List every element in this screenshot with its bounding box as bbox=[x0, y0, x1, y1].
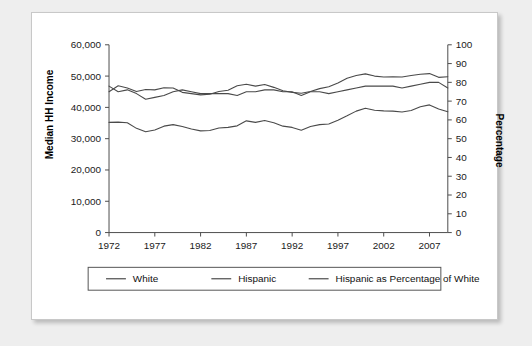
line-chart: 010,00020,00030,00040,00050,00060,000010… bbox=[32, 13, 497, 319]
data-series-line bbox=[109, 74, 448, 95]
y-axis-left-tick-label: 30,000 bbox=[71, 133, 102, 144]
x-axis-tick-label: 1977 bbox=[144, 240, 167, 251]
data-series-line bbox=[109, 82, 448, 99]
legend-item-label: White bbox=[133, 273, 159, 284]
y-axis-right-tick-label: 50 bbox=[456, 133, 468, 144]
y-axis-left-tick-label: 0 bbox=[96, 227, 102, 238]
y-axis-left-tick-label: 60,000 bbox=[71, 39, 102, 50]
legend-item-label: Hispanic as Percentage of White bbox=[336, 273, 480, 284]
y-axis-left-tick-label: 40,000 bbox=[71, 102, 102, 113]
legend-item-label: Hispanic bbox=[238, 273, 276, 284]
x-axis-tick-label: 2007 bbox=[418, 240, 441, 251]
y-axis-right-tick-label: 0 bbox=[456, 227, 462, 238]
x-axis-tick-label: 1987 bbox=[235, 240, 258, 251]
y-axis-right-tick-label: 100 bbox=[456, 39, 473, 50]
y-axis-left-tick-label: 50,000 bbox=[71, 71, 102, 82]
x-axis-tick-label: 1982 bbox=[190, 240, 213, 251]
y-axis-left-tick-label: 20,000 bbox=[71, 164, 102, 175]
y-axis-right-tick-label: 80 bbox=[456, 77, 468, 88]
x-axis-tick-label: 1992 bbox=[281, 240, 304, 251]
x-axis-tick-label: 2002 bbox=[373, 240, 396, 251]
y-axis-right-tick-label: 60 bbox=[456, 114, 468, 125]
y-axis-right-tick-label: 70 bbox=[456, 96, 468, 107]
left-and-bottom-axis bbox=[109, 45, 448, 233]
y-axis-right-tick-label: 40 bbox=[456, 152, 468, 163]
y-axis-right-tick-label: 10 bbox=[456, 208, 468, 219]
y-axis-right-tick-label: 30 bbox=[456, 171, 468, 182]
data-series-line bbox=[109, 105, 448, 132]
y-axis-right-tick-label: 90 bbox=[456, 58, 468, 69]
chart-card: Median HH Income Percentage 010,00020,00… bbox=[31, 12, 498, 320]
y-axis-left-tick-label: 10,000 bbox=[71, 196, 102, 207]
x-axis-tick-label: 1997 bbox=[327, 240, 350, 251]
y-axis-right-tick-label: 20 bbox=[456, 189, 468, 200]
x-axis-tick-label: 1972 bbox=[98, 240, 121, 251]
